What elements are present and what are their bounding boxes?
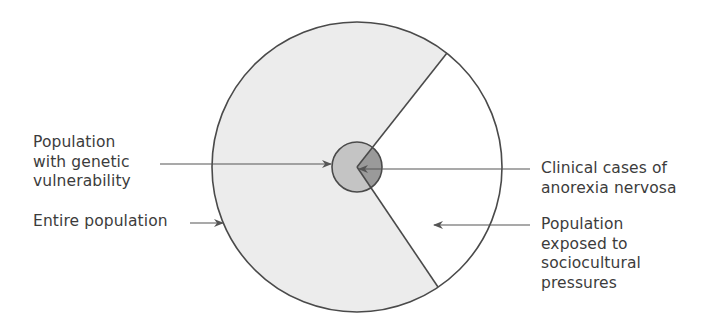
label-line: pressures xyxy=(541,274,641,294)
label-line: Entire population xyxy=(33,212,168,232)
label-line: sociocultural xyxy=(541,254,641,274)
label-line: exposed to xyxy=(541,235,641,255)
clinical-cases-label: Clinical cases of anorexia nervosa xyxy=(541,159,677,198)
label-line: Population xyxy=(541,215,641,235)
label-line: with genetic xyxy=(33,153,131,173)
entire-population-label: Entire population xyxy=(33,212,168,232)
label-line: anorexia nervosa xyxy=(541,179,677,199)
sociocultural-pressures-label: Population exposed to sociocultural pres… xyxy=(541,215,641,293)
genetic-vulnerability-label: Population with genetic vulnerability xyxy=(33,133,131,192)
label-line: Clinical cases of xyxy=(541,159,677,179)
label-line: Population xyxy=(33,133,131,153)
label-line: vulnerability xyxy=(33,172,131,192)
